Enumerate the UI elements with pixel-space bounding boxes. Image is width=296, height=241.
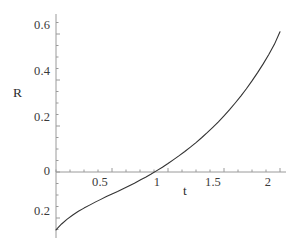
y-tick-label-4: 0.2 <box>16 205 50 218</box>
y-axis-tick-marks <box>56 23 60 230</box>
chart-figure: 0.6 0.4 0.2 0 0.2 0.5 1 1.5 2 R t <box>0 0 296 241</box>
x-axis-title: t <box>183 184 187 198</box>
y-tick-label-2: 0.2 <box>16 111 50 124</box>
y-axis-title: R <box>13 86 22 100</box>
x-tick-label-2: 1.5 <box>199 176 227 189</box>
x-tick-label-0: 0.5 <box>86 176 114 189</box>
x-axis-tick-marks <box>56 168 280 172</box>
y-tick-label-3: 0 <box>16 165 50 178</box>
x-tick-label-1: 1 <box>143 176 171 189</box>
y-tick-label-1: 0.4 <box>16 65 50 78</box>
data-curve-r-of-t <box>56 32 280 230</box>
y-tick-label-0: 0.6 <box>16 19 50 32</box>
x-tick-label-3: 2 <box>254 176 282 189</box>
